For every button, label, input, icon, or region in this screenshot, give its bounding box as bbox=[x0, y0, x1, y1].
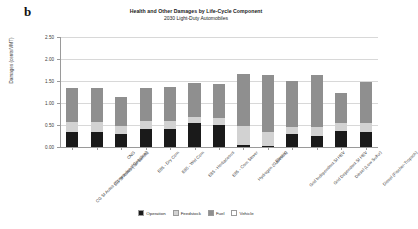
x-tick-mark bbox=[366, 147, 367, 150]
bar-segment-operation[interactable] bbox=[188, 123, 200, 147]
x-tick-mark bbox=[121, 147, 122, 150]
bar-group[interactable] bbox=[286, 81, 298, 147]
bar-segment-feedstock[interactable] bbox=[188, 117, 200, 123]
legend-swatch-icon bbox=[138, 210, 144, 216]
x-tick-label: Diesel (Fischer-Tropsch) bbox=[381, 150, 418, 187]
bar-segment-feedstock[interactable] bbox=[360, 123, 372, 132]
legend-item[interactable]: Operation bbox=[138, 210, 165, 216]
x-tick-mark bbox=[317, 147, 318, 150]
x-tick-mark bbox=[195, 147, 196, 150]
bar-segment-feedstock[interactable] bbox=[262, 132, 274, 146]
gridline bbox=[60, 81, 378, 82]
bar-segment-feedstock[interactable] bbox=[286, 127, 298, 134]
chart-subtitle: 2030 Light-Duty Automobiles bbox=[0, 15, 392, 22]
bar-group[interactable] bbox=[164, 87, 176, 147]
bar-segment-feedstock[interactable] bbox=[91, 122, 103, 132]
x-tick-label: Electric bbox=[274, 150, 288, 164]
bar-segment-operation[interactable] bbox=[286, 134, 298, 147]
bar-segment-fuel[interactable] bbox=[213, 84, 225, 118]
x-tick-mark bbox=[170, 147, 171, 150]
bar-segment-fuel[interactable] bbox=[140, 88, 152, 121]
bar-segment-fuel[interactable] bbox=[360, 82, 372, 123]
legend-swatch-icon bbox=[173, 210, 179, 216]
legend-label: Fuel bbox=[216, 211, 225, 216]
y-tick-label: 1.50 bbox=[14, 79, 54, 84]
x-tick-mark bbox=[72, 147, 73, 150]
bar-group[interactable] bbox=[66, 88, 78, 147]
bar-segment-fuel[interactable] bbox=[66, 88, 78, 122]
bar-segment-feedstock[interactable] bbox=[164, 121, 176, 129]
bar-group[interactable] bbox=[188, 83, 200, 147]
gridline bbox=[60, 37, 378, 38]
bar-segment-fuel[interactable] bbox=[237, 74, 249, 126]
x-tick-mark bbox=[292, 147, 293, 150]
legend-item[interactable]: Fuel bbox=[208, 210, 225, 216]
x-tick-mark bbox=[146, 147, 147, 150]
bar-segment-feedstock[interactable] bbox=[237, 126, 249, 145]
chart-title: Health and Other Damages by Life-Cycle C… bbox=[0, 8, 392, 15]
x-tick-mark bbox=[341, 147, 342, 150]
y-tick-label: 1.00 bbox=[14, 101, 54, 106]
bar-segment-operation[interactable] bbox=[115, 134, 127, 147]
bar-group[interactable] bbox=[140, 88, 152, 147]
bar-segment-fuel[interactable] bbox=[91, 88, 103, 122]
x-tick-mark bbox=[219, 147, 220, 150]
legend-label: Operation bbox=[146, 211, 165, 216]
bar-segment-fuel[interactable] bbox=[188, 83, 200, 117]
x-tick-label: E85 - Wet Corn bbox=[181, 150, 205, 174]
bar-segment-feedstock[interactable] bbox=[213, 118, 225, 125]
bar-group[interactable] bbox=[311, 75, 323, 147]
y-tick-label: 0.50 bbox=[14, 123, 54, 128]
bar-segment-fuel[interactable] bbox=[286, 81, 298, 127]
bar-group[interactable] bbox=[91, 88, 103, 147]
chart-legend: OperationFeedstockFuelVehicle bbox=[0, 210, 392, 216]
y-tick-label: 2.50 bbox=[14, 35, 54, 40]
bar-segment-fuel[interactable] bbox=[164, 87, 176, 121]
y-axis-line bbox=[60, 37, 61, 148]
bar-segment-feedstock[interactable] bbox=[140, 121, 152, 129]
legend-item[interactable]: Vehicle bbox=[231, 210, 253, 216]
bar-group[interactable] bbox=[360, 82, 372, 147]
bar-segment-feedstock[interactable] bbox=[311, 127, 323, 136]
legend-label: Feedstock bbox=[181, 211, 201, 216]
bar-segment-feedstock[interactable] bbox=[66, 122, 78, 132]
bar-segment-operation[interactable] bbox=[335, 131, 347, 147]
gridline bbox=[60, 59, 378, 60]
x-tick-label: E85 - Corn Stover bbox=[231, 150, 259, 178]
bar-group[interactable] bbox=[115, 97, 127, 147]
bar-segment-feedstock[interactable] bbox=[115, 126, 127, 134]
bar-group[interactable] bbox=[335, 93, 347, 147]
x-tick-label: Grid Independent SI HEV bbox=[309, 150, 347, 188]
bar-segment-operation[interactable] bbox=[164, 129, 176, 147]
bar-group[interactable] bbox=[262, 75, 274, 147]
legend-swatch-icon bbox=[231, 210, 237, 216]
chart-title-block: Health and Other Damages by Life-Cycle C… bbox=[0, 8, 392, 22]
bar-group[interactable] bbox=[237, 74, 249, 147]
bar-segment-operation[interactable] bbox=[213, 125, 225, 147]
x-tick-mark bbox=[243, 147, 244, 150]
bar-segment-operation[interactable] bbox=[140, 129, 152, 147]
y-tick-label: 0.00 bbox=[14, 145, 54, 150]
x-tick-label: E85 - Dry Corn bbox=[156, 150, 180, 174]
bar-segment-operation[interactable] bbox=[66, 132, 78, 147]
plot-area bbox=[60, 37, 378, 147]
bar-segment-fuel[interactable] bbox=[115, 97, 127, 126]
bar-segment-operation[interactable] bbox=[91, 132, 103, 147]
bar-segment-operation[interactable] bbox=[311, 136, 323, 147]
bar-segment-fuel[interactable] bbox=[335, 93, 347, 123]
y-axis-label: Damages (cents/VMT) bbox=[9, 11, 14, 111]
legend-item[interactable]: Feedstock bbox=[173, 210, 201, 216]
x-tick-mark bbox=[97, 147, 98, 150]
bar-segment-fuel[interactable] bbox=[262, 75, 274, 132]
legend-label: Vehicle bbox=[239, 211, 253, 216]
bar-group[interactable] bbox=[213, 84, 225, 147]
bar-segment-feedstock[interactable] bbox=[335, 123, 347, 131]
bar-segment-fuel[interactable] bbox=[311, 75, 323, 127]
x-tick-mark bbox=[268, 147, 269, 150]
bar-segment-operation[interactable] bbox=[360, 132, 372, 147]
legend-swatch-icon bbox=[208, 210, 214, 216]
y-tick-label: 2.00 bbox=[14, 57, 54, 62]
